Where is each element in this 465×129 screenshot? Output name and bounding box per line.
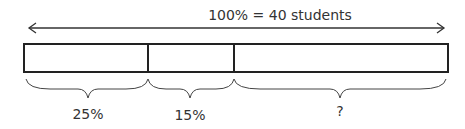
segment-label-1: 25% xyxy=(58,106,118,122)
total-arrow xyxy=(29,23,444,33)
total-label: 100% = 40 students xyxy=(200,7,360,23)
tape-bar xyxy=(24,44,448,72)
segment-label-unknown: ? xyxy=(320,103,360,119)
braces xyxy=(26,79,446,98)
brace-unknown xyxy=(234,79,446,98)
segment-label-2: 15% xyxy=(160,107,220,123)
brace-15 xyxy=(148,79,234,98)
brace-25 xyxy=(26,79,148,98)
bar-outline xyxy=(24,44,448,72)
